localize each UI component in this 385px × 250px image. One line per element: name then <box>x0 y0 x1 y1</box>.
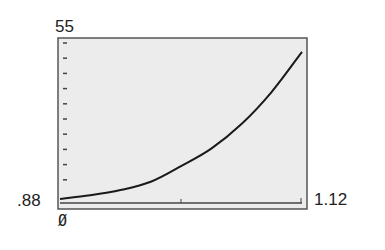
plot-area <box>0 0 385 250</box>
plot-frame <box>58 38 307 209</box>
